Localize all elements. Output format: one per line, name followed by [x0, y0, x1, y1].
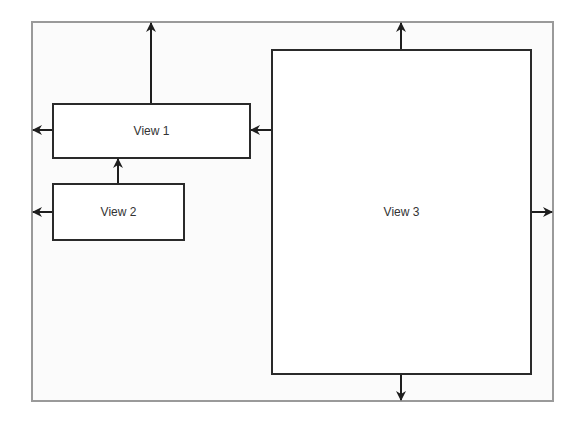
diagram-canvas: View 1 View 2 View 3	[0, 0, 580, 423]
view-2-label: View 2	[101, 205, 137, 219]
view-3-label: View 3	[384, 205, 420, 219]
view-1-label: View 1	[134, 124, 170, 138]
view-2-box: View 2	[52, 183, 185, 241]
view-1-box: View 1	[52, 103, 251, 159]
view-3-box: View 3	[271, 49, 532, 375]
